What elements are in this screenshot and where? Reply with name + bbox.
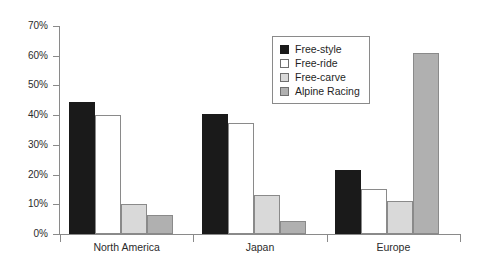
legend-label: Free-style xyxy=(295,43,342,55)
bar-north-america-free-style xyxy=(69,102,95,234)
bar-north-america-free-carve xyxy=(121,204,147,234)
bar-europe-alpine-racing xyxy=(413,53,439,234)
x-axis-category-label: Japan xyxy=(193,240,326,254)
legend-label: Free-ride xyxy=(295,57,338,69)
legend-item: Free-ride xyxy=(280,56,360,70)
x-axis-separator-tick xyxy=(60,235,61,242)
x-axis-category-label: Europe xyxy=(327,240,460,254)
y-axis-tick xyxy=(53,115,59,116)
bar-north-america-free-ride xyxy=(95,115,121,234)
y-axis-label: 0% xyxy=(6,229,48,239)
bar-japan-free-carve xyxy=(254,195,280,234)
x-axis-line xyxy=(59,234,461,235)
bar-europe-free-carve xyxy=(387,201,413,234)
legend-swatch-icon xyxy=(280,45,289,54)
legend-swatch-icon xyxy=(280,59,289,68)
y-axis-tick xyxy=(53,175,59,176)
y-axis-label: 10% xyxy=(6,199,48,209)
bar-europe-free-style xyxy=(335,170,361,234)
y-axis-tick xyxy=(53,56,59,57)
y-axis-tick xyxy=(53,26,59,27)
bar-north-america-alpine-racing xyxy=(147,215,173,234)
y-axis-tick xyxy=(53,234,59,235)
y-axis-tick xyxy=(53,145,59,146)
x-axis-category-label: North America xyxy=(60,240,193,254)
legend-swatch-icon xyxy=(280,73,289,82)
y-axis-label: 20% xyxy=(6,170,48,180)
legend-item: Alpine Racing xyxy=(280,84,360,98)
plot-area xyxy=(60,26,460,234)
y-axis-label: 50% xyxy=(6,80,48,90)
bar-europe-free-ride xyxy=(361,189,387,234)
y-axis-tick xyxy=(53,85,59,86)
chart-legend: Free-styleFree-rideFree-carveAlpine Raci… xyxy=(272,36,370,104)
bar-japan-free-style xyxy=(202,114,228,234)
bar-japan-alpine-racing xyxy=(280,221,306,234)
legend-item: Free-carve xyxy=(280,70,360,84)
legend-item: Free-style xyxy=(280,42,360,56)
legend-label: Free-carve xyxy=(295,71,346,83)
y-axis-label: 30% xyxy=(6,140,48,150)
x-axis-separator-tick xyxy=(460,235,461,242)
legend-label: Alpine Racing xyxy=(295,85,360,97)
bar-japan-free-ride xyxy=(228,123,254,234)
bar-chart: 0%10%20%30%40%50%60%70% North AmericaJap… xyxy=(0,0,484,258)
legend-swatch-icon xyxy=(280,87,289,96)
y-axis-label: 60% xyxy=(6,51,48,61)
y-axis-label: 40% xyxy=(6,110,48,120)
y-axis-tick xyxy=(53,204,59,205)
y-axis-label: 70% xyxy=(6,21,48,31)
